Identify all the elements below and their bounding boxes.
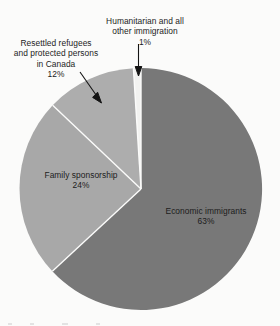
label-family-sponsorship: Family sponsorship 24% <box>22 160 140 201</box>
label-resettled-refugees-text: Resettled refugees and protected persons… <box>14 38 98 68</box>
pie-chart-figure: Humanitarian and all other immigration 1… <box>0 0 280 326</box>
label-family-sponsorship-percent: 24% <box>22 180 140 190</box>
label-resettled-refugees-percent: 12% <box>0 69 114 79</box>
label-family-sponsorship-text: Family sponsorship <box>44 170 117 180</box>
label-resettled-refugees: Resettled refugees and protected persons… <box>0 28 114 89</box>
label-economic-immigrants-text: Economic immigrants <box>166 206 247 216</box>
label-humanitarian-text: Humanitarian and all other immigration <box>106 16 184 36</box>
scan-bottom-edge <box>0 318 280 326</box>
label-economic-immigrants: Economic immigrants 63% <box>146 196 266 237</box>
label-economic-immigrants-percent: 63% <box>146 216 266 226</box>
